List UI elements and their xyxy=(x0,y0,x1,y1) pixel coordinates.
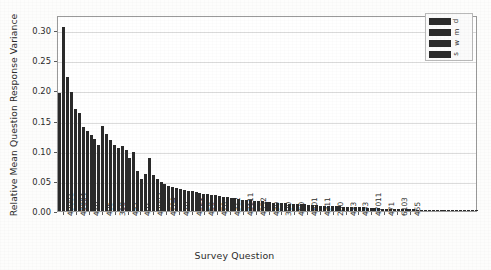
bar-series xyxy=(58,17,476,211)
x-tick-label: 453 xyxy=(361,202,370,216)
x-tick-mark xyxy=(256,212,257,215)
y-tick-mark xyxy=(54,61,57,62)
x-tick-label: 4801 xyxy=(310,197,319,216)
y-tick-label: 0.00 xyxy=(17,207,51,217)
y-tick-label: 0.15 xyxy=(17,117,51,127)
x-tick-label: 433 xyxy=(349,202,358,216)
bar xyxy=(58,93,61,211)
bar xyxy=(105,134,108,211)
x-tick-mark xyxy=(358,212,359,215)
x-tick-label: 4311 xyxy=(323,197,332,216)
x-tick-mark xyxy=(371,212,372,215)
legend-swatch xyxy=(429,29,451,36)
y-tick-mark xyxy=(54,122,57,123)
bar xyxy=(191,191,194,211)
y-tick-label: 0.30 xyxy=(17,26,51,36)
legend[interactable]: dmws xyxy=(425,13,473,61)
bar xyxy=(447,210,450,211)
x-tick-mark xyxy=(102,212,103,215)
x-tick-label: 4352 xyxy=(259,197,268,216)
bar xyxy=(424,210,427,211)
bar xyxy=(443,210,446,211)
bar xyxy=(62,27,65,211)
x-tick-label: 6103 xyxy=(400,197,409,216)
y-tick-mark xyxy=(54,31,57,32)
y-tick-mark xyxy=(54,91,57,92)
y-axis-title: Relative Mean Question Response Variance xyxy=(6,6,22,224)
bar xyxy=(455,210,458,211)
x-tick-label: 452 xyxy=(131,202,140,216)
legend-swatch xyxy=(429,18,451,25)
bar xyxy=(93,139,96,211)
x-tick-mark xyxy=(217,212,218,215)
bar xyxy=(471,210,474,211)
x-tick-mark xyxy=(410,212,411,215)
bar xyxy=(428,210,431,211)
legend-item[interactable]: s xyxy=(429,49,469,59)
legend-item[interactable]: m xyxy=(429,27,469,37)
y-tick-label: 0.20 xyxy=(17,86,51,96)
bar xyxy=(440,210,443,211)
legend-label: d xyxy=(452,19,460,23)
x-tick-mark xyxy=(384,212,385,215)
legend-swatch xyxy=(429,40,451,47)
bar xyxy=(475,210,478,211)
x-tick-label: 49001 xyxy=(66,192,75,216)
x-tick-mark xyxy=(166,212,167,215)
x-tick-label: 43111 xyxy=(246,192,255,216)
legend-item[interactable]: w xyxy=(429,38,469,48)
x-tick-label: 49004 xyxy=(79,192,88,216)
x-tick-mark xyxy=(230,212,231,215)
x-tick-label: 300 xyxy=(284,202,293,216)
x-tick-label: 310 xyxy=(118,202,127,216)
bar xyxy=(467,210,470,211)
x-tick-mark xyxy=(115,212,116,215)
legend-item[interactable]: d xyxy=(429,16,469,26)
x-tick-mark xyxy=(204,212,205,215)
bar xyxy=(268,202,271,211)
x-tick-mark xyxy=(281,212,282,215)
legend-label: w xyxy=(453,40,461,46)
x-tick-label: 4704 xyxy=(169,197,178,216)
x-tick-label: 420 xyxy=(182,202,191,216)
x-tick-mark xyxy=(269,212,270,215)
x-tick-label: 47011 xyxy=(374,192,383,216)
legend-swatch xyxy=(429,51,451,58)
bar xyxy=(319,206,322,211)
x-tick-mark xyxy=(128,212,129,215)
legend-label: s xyxy=(452,52,460,56)
chart-figure: Relative Mean Question Response Variance… xyxy=(0,0,491,270)
x-tick-label: 460 xyxy=(297,202,306,216)
x-tick-label: 470 xyxy=(220,202,229,216)
x-tick-mark xyxy=(320,212,321,215)
bar xyxy=(66,77,69,211)
x-tick-mark xyxy=(307,212,308,215)
x-tick-mark xyxy=(140,212,141,215)
y-tick-label: 0.10 xyxy=(17,147,51,157)
x-tick-label: 450 xyxy=(207,202,216,216)
bar xyxy=(90,135,93,211)
x-tick-mark xyxy=(76,212,77,215)
x-tick-mark xyxy=(192,212,193,215)
y-tick-label: 0.25 xyxy=(17,56,51,66)
bar xyxy=(432,210,435,211)
x-tick-label: 410 xyxy=(92,202,101,216)
x-tick-mark xyxy=(333,212,334,215)
x-tick-label: 4312 xyxy=(233,197,242,216)
x-tick-label: 4321 xyxy=(195,197,204,216)
y-tick-mark xyxy=(54,152,57,153)
x-tick-mark xyxy=(346,212,347,215)
legend-label: m xyxy=(453,29,461,36)
x-tick-label: 471 xyxy=(387,202,396,216)
x-tick-mark xyxy=(89,212,90,215)
x-tick-label: 430 xyxy=(272,202,281,216)
x-tick-mark xyxy=(153,212,154,215)
bar xyxy=(459,210,462,211)
y-tick-mark xyxy=(54,182,57,183)
x-tick-label: 405 xyxy=(105,202,114,216)
x-tick-mark xyxy=(63,212,64,215)
plot-area xyxy=(57,16,477,212)
y-tick-label: 0.05 xyxy=(17,177,51,187)
x-tick-label: 401 xyxy=(143,202,152,216)
bar xyxy=(101,126,104,211)
